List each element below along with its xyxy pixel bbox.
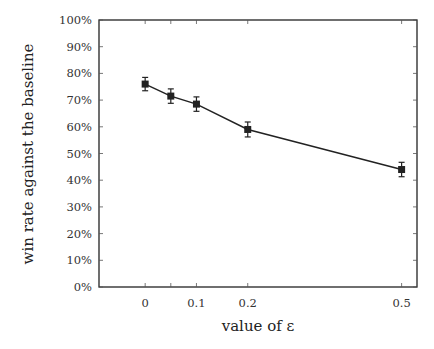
square-marker (193, 101, 200, 108)
y-ticks: 0%10%20%30%40%50%60%70%80%90%100% (59, 13, 417, 294)
y-axis-label: win rate against the baseline (19, 43, 37, 264)
chart: 0%10%20%30%40%50%60%70%80%90%100% 00.10.… (0, 0, 434, 349)
axes (99, 20, 417, 287)
y-tick-label: 90% (66, 40, 92, 54)
data-point (398, 162, 405, 176)
data-point (193, 97, 200, 111)
data-point (142, 77, 149, 90)
y-tick-label: 30% (66, 200, 92, 214)
y-tick-label: 60% (66, 120, 92, 134)
square-marker (142, 81, 149, 88)
square-marker (398, 166, 405, 173)
x-tick-label: 0 (141, 296, 148, 310)
x-tick-label: 0.5 (392, 296, 410, 310)
y-tick-label: 0% (74, 280, 92, 294)
data-point (244, 122, 251, 137)
y-tick-label: 80% (66, 66, 92, 80)
data-point (167, 89, 174, 103)
x-axis-label: value of ε (221, 317, 295, 335)
series (142, 77, 405, 176)
y-tick-label: 40% (66, 173, 92, 187)
x-tick-label: 0.1 (187, 296, 205, 310)
square-marker (244, 126, 251, 133)
y-tick-label: 100% (59, 13, 92, 27)
square-marker (167, 93, 174, 100)
y-tick-label: 70% (66, 93, 92, 107)
plot-frame (99, 20, 417, 287)
y-tick-label: 10% (66, 253, 92, 267)
x-tick-label: 0.2 (239, 296, 257, 310)
y-tick-label: 50% (66, 147, 92, 161)
series-line (145, 84, 401, 169)
y-tick-label: 20% (66, 227, 92, 241)
x-ticks: 00.10.20.5 (141, 20, 410, 310)
